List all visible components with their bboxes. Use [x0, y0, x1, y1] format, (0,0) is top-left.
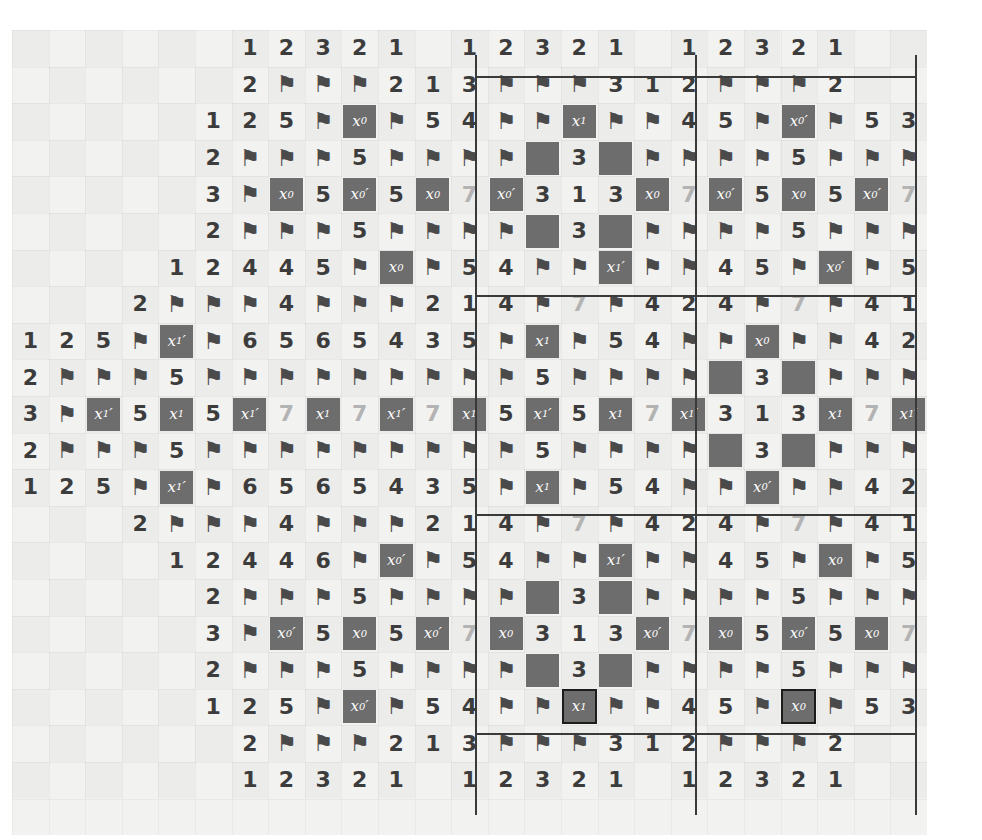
- number-cell-2[interactable]: 2: [707, 762, 744, 799]
- number-cell-4[interactable]: 4: [854, 469, 891, 506]
- flag-icon[interactable]: ⚑: [671, 469, 708, 506]
- flag-icon[interactable]: ⚑: [561, 359, 598, 396]
- number-cell-5[interactable]: 5: [890, 250, 927, 287]
- mine-cell-x1[interactable]: x1: [561, 689, 598, 726]
- flag-icon[interactable]: ⚑: [524, 286, 561, 323]
- flag-icon[interactable]: ⚑: [305, 725, 342, 762]
- flag-icon[interactable]: ⚑: [305, 359, 342, 396]
- number-cell-5[interactable]: 5: [451, 469, 488, 506]
- number-cell-1[interactable]: 1: [451, 506, 488, 543]
- number-cell-5[interactable]: 5: [744, 616, 781, 653]
- number-cell-2[interactable]: 2: [817, 67, 854, 104]
- mine-cell-blank[interactable]: [780, 359, 817, 396]
- number-cell-4[interactable]: 4: [378, 469, 415, 506]
- number-cell-1[interactable]: 1: [378, 762, 415, 799]
- number-cell-4[interactable]: 4: [854, 286, 891, 323]
- dark-square[interactable]: x1′: [526, 398, 559, 431]
- flag-icon[interactable]: ⚑: [598, 689, 635, 726]
- number-cell-3[interactable]: 3: [744, 30, 781, 67]
- dark-square[interactable]: [709, 434, 742, 467]
- flag-icon[interactable]: ⚑: [195, 286, 232, 323]
- dark-square[interactable]: x1′: [160, 325, 193, 358]
- flag-icon[interactable]: ⚑: [854, 250, 891, 287]
- number-cell-3[interactable]: 3: [195, 616, 232, 653]
- dark-square[interactable]: [782, 361, 815, 394]
- number-cell-4[interactable]: 4: [671, 689, 708, 726]
- flag-icon[interactable]: ⚑: [488, 140, 525, 177]
- mine-cell-blank[interactable]: [598, 140, 635, 177]
- dark-square[interactable]: x1: [526, 325, 559, 358]
- number-cell-5[interactable]: 5: [341, 652, 378, 689]
- dark-square[interactable]: x0: [782, 690, 815, 723]
- number-cell-2[interactable]: 2: [780, 30, 817, 67]
- mine-cell-x1[interactable]: x1′: [890, 396, 927, 433]
- number-cell-2[interactable]: 2: [561, 30, 598, 67]
- number-cell-1[interactable]: 1: [634, 67, 671, 104]
- flag-icon[interactable]: ⚑: [488, 67, 525, 104]
- number-cell-4[interactable]: 4: [634, 506, 671, 543]
- flag-icon[interactable]: ⚑: [890, 579, 927, 616]
- mine-cell-blank[interactable]: [598, 213, 635, 250]
- dark-square[interactable]: x0′: [270, 617, 303, 650]
- flag-icon[interactable]: ⚑: [634, 250, 671, 287]
- number-cell-2[interactable]: 2: [341, 30, 378, 67]
- number-cell-7[interactable]: 7: [451, 616, 488, 653]
- mine-cell-x0[interactable]: x0′: [341, 176, 378, 213]
- dark-square[interactable]: [526, 581, 559, 614]
- number-cell-1[interactable]: 1: [232, 30, 269, 67]
- mine-cell-x1[interactable]: x1′: [232, 396, 269, 433]
- dark-square[interactable]: [526, 142, 559, 175]
- number-cell-5[interactable]: 5: [341, 579, 378, 616]
- number-cell-4[interactable]: 4: [451, 103, 488, 140]
- flag-icon[interactable]: ⚑: [122, 469, 159, 506]
- flag-icon[interactable]: ⚑: [488, 433, 525, 470]
- number-cell-3[interactable]: 3: [451, 725, 488, 762]
- flag-icon[interactable]: ⚑: [415, 652, 452, 689]
- flag-icon[interactable]: ⚑: [634, 542, 671, 579]
- flag-icon[interactable]: ⚑: [854, 213, 891, 250]
- dark-square[interactable]: x1: [160, 398, 193, 431]
- flag-icon[interactable]: ⚑: [671, 652, 708, 689]
- flag-icon[interactable]: ⚑: [854, 652, 891, 689]
- flag-icon[interactable]: ⚑: [415, 213, 452, 250]
- flag-icon[interactable]: ⚑: [341, 506, 378, 543]
- flag-icon[interactable]: ⚑: [707, 140, 744, 177]
- flag-icon[interactable]: ⚑: [488, 323, 525, 360]
- flag-icon[interactable]: ⚑: [341, 725, 378, 762]
- flag-icon[interactable]: ⚑: [488, 213, 525, 250]
- flag-icon[interactable]: ⚑: [488, 103, 525, 140]
- flag-icon[interactable]: ⚑: [561, 725, 598, 762]
- flag-icon[interactable]: ⚑: [561, 323, 598, 360]
- flag-icon[interactable]: ⚑: [524, 250, 561, 287]
- mine-cell-x1[interactable]: x1: [524, 323, 561, 360]
- mine-cell-x0[interactable]: x0′: [341, 689, 378, 726]
- flag-icon[interactable]: ⚑: [524, 542, 561, 579]
- number-cell-2[interactable]: 2: [890, 469, 927, 506]
- number-cell-5[interactable]: 5: [561, 396, 598, 433]
- flag-icon[interactable]: ⚑: [341, 542, 378, 579]
- number-cell-1[interactable]: 1: [598, 30, 635, 67]
- flag-icon[interactable]: ⚑: [817, 286, 854, 323]
- flag-icon[interactable]: ⚑: [561, 433, 598, 470]
- flag-icon[interactable]: ⚑: [305, 286, 342, 323]
- mine-cell-x0[interactable]: x0: [854, 616, 891, 653]
- dark-square[interactable]: x0′: [380, 544, 413, 577]
- number-cell-7[interactable]: 7: [780, 506, 817, 543]
- mine-cell-x0[interactable]: x0′: [817, 250, 854, 287]
- number-cell-6[interactable]: 6: [232, 469, 269, 506]
- mine-cell-x1[interactable]: x1: [817, 396, 854, 433]
- flag-icon[interactable]: ⚑: [598, 433, 635, 470]
- number-cell-5[interactable]: 5: [305, 250, 342, 287]
- dark-square[interactable]: x0′: [636, 617, 669, 650]
- dark-square[interactable]: x1′: [160, 471, 193, 504]
- number-cell-2[interactable]: 2: [268, 30, 305, 67]
- flag-icon[interactable]: ⚑: [488, 469, 525, 506]
- mine-cell-x1[interactable]: x1′: [85, 396, 122, 433]
- flag-icon[interactable]: ⚑: [378, 506, 415, 543]
- mine-cell-x0[interactable]: x0′: [780, 616, 817, 653]
- flag-icon[interactable]: ⚑: [524, 506, 561, 543]
- flag-icon[interactable]: ⚑: [488, 725, 525, 762]
- mine-cell-x0[interactable]: x0: [268, 176, 305, 213]
- number-cell-3[interactable]: 3: [524, 30, 561, 67]
- flag-icon[interactable]: ⚑: [122, 359, 159, 396]
